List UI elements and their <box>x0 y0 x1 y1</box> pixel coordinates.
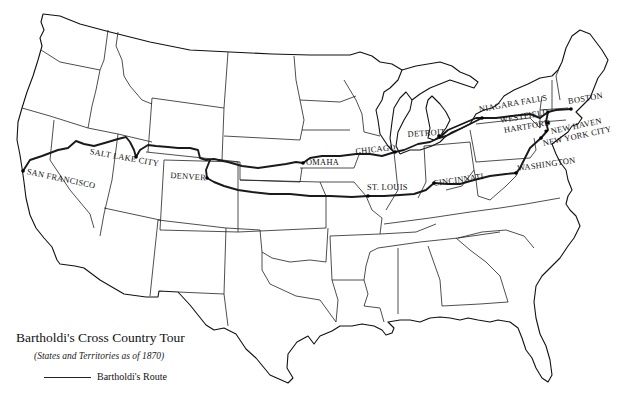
city-label-omaha: OMAHA <box>306 159 339 167</box>
map-canvas: SAN FRANCISCO SALT LAKE CITY DENVER OMAH… <box>0 0 617 399</box>
map-title: Bartholdi's Cross Country Tour <box>16 330 185 346</box>
city-label-st-louis: ST. LOUIS <box>367 184 408 192</box>
map-subtitle: (States and Territories as of 1870) <box>34 351 164 361</box>
city-dot-omaha <box>301 161 305 165</box>
city-dot-san-francisco <box>21 169 25 173</box>
city-dot-new-haven <box>544 129 547 132</box>
city-dot-boston <box>569 107 573 111</box>
state-boundaries <box>22 30 568 326</box>
route-legend-swatch <box>44 377 91 378</box>
city-dot-st-louis <box>366 194 370 198</box>
route-legend-label: Bartholdi's Route <box>97 371 167 382</box>
city-dot-niagara-falls <box>480 116 484 120</box>
country-outline <box>17 14 608 383</box>
